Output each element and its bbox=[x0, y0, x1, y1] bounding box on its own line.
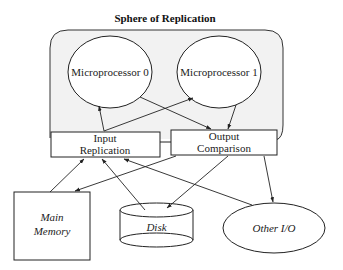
output-comparison-label-line1: Output bbox=[209, 130, 240, 142]
other-io-label: Other I/O bbox=[252, 222, 295, 234]
microprocessor-0-node: Microprocessor 0 bbox=[68, 36, 152, 108]
disk-label: Disk bbox=[145, 221, 167, 233]
disk-node: Disk bbox=[120, 203, 193, 247]
diagram-title: Sphere of Replication bbox=[114, 12, 215, 24]
input-replication-node: Input Replication bbox=[51, 132, 160, 157]
arrow-disk-to-input bbox=[102, 159, 145, 210]
other-io-node: Other I/O bbox=[223, 203, 325, 253]
arrow-output-to-disk bbox=[167, 156, 228, 208]
main-memory-node: Main Memory bbox=[14, 192, 90, 260]
microprocessor-1-label: Microprocessor 1 bbox=[180, 66, 257, 78]
output-comparison-node: Output Comparison bbox=[171, 130, 277, 155]
microprocessor-0-label: Microprocessor 0 bbox=[71, 66, 149, 78]
arrow-output-to-memory bbox=[75, 156, 176, 191]
arrow-output-to-otherio bbox=[264, 156, 273, 202]
output-comparison-label-line2: Comparison bbox=[197, 142, 251, 154]
main-memory-label-line2: Memory bbox=[33, 225, 71, 237]
sphere-of-replication-diagram: Sphere of Replication Microprocessor 0 M… bbox=[0, 0, 343, 270]
arrow-memory-to-input bbox=[50, 159, 84, 192]
microprocessor-1-node: Microprocessor 1 bbox=[177, 36, 261, 108]
arrow-otherio-to-input bbox=[124, 159, 252, 205]
input-replication-label-line2: Replication bbox=[80, 144, 131, 156]
main-memory-label-line1: Main bbox=[39, 211, 64, 223]
input-replication-label-line1: Input bbox=[93, 132, 116, 144]
